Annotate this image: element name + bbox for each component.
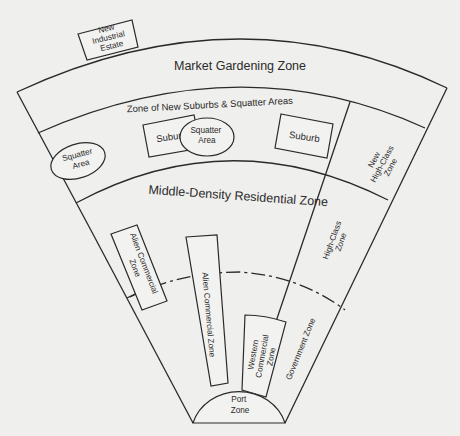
alien-commercial-zone-1: Alien Commercial Zone [111,225,167,310]
fan-outline [17,39,447,423]
new-industrial-estate-zone: New Industrial Estate [78,20,138,60]
western-commercial-zone: Western Commercial Zone [242,315,286,397]
new-high-class-label: New High-Class Zone [361,138,405,188]
port-zone: Port Zone [193,392,285,423]
urban-land-use-diagram: New Industrial Estate Market Gardening Z… [0,0,460,436]
market-gardening-label: Market Gardening Zone [174,59,306,73]
high-class-label: High-Class Zone [321,218,352,264]
suburbs-outer-arc [38,87,425,133]
middle-density-label: Middle-Density Residential Zone [148,183,329,210]
new-suburbs-squatter-label: Zone of New Suburbs & Squatter Areas [126,95,293,115]
government-zone-label: Government Zone [284,316,317,381]
squatter-area-2: Squatter Area [180,118,234,156]
squatter-area-1: Squatter Area [46,136,110,186]
suburb-2: Suburb [275,114,333,158]
alien-commercial-zone-2: Alien Commercial Zone [186,235,228,386]
